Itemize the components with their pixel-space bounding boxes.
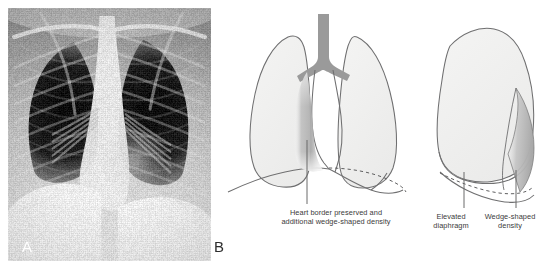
- caption-frontal-line1: Heart border preserved and: [241, 208, 431, 217]
- caption-wedge-line2: density: [473, 221, 547, 230]
- lateral-lung-drawing: [437, 28, 534, 208]
- caption-frontal: Heart border preserved and additional we…: [241, 208, 431, 226]
- chest-xray-image: [8, 8, 211, 261]
- panel-label-a: A: [22, 238, 33, 255]
- caption-wedge-density: Wedge-shaped density: [473, 212, 547, 230]
- figure-container: A: [0, 0, 559, 261]
- frontal-lung-drawing: [228, 14, 406, 204]
- trachea-icon: [297, 14, 350, 82]
- panel-label-b: B: [214, 238, 225, 255]
- panel-a-radiograph: A: [8, 8, 211, 261]
- caption-wedge-line1: Wedge-shaped: [473, 212, 547, 221]
- panel-b-diagram: Heart border preserved and additional we…: [211, 0, 559, 261]
- left-lung-outline: [338, 36, 396, 188]
- caption-frontal-line2: additional wedge-shaped density: [241, 217, 431, 226]
